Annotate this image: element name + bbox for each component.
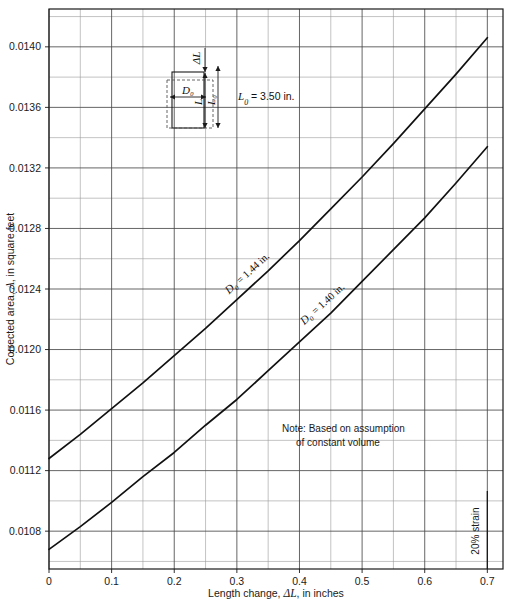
x-tick-label: 0.4 (292, 575, 307, 587)
x-axis-title-symbol: ΔL (282, 587, 296, 599)
l-label: L (192, 99, 204, 106)
d0-label: D₀ (181, 84, 194, 96)
y-axis-title: Corrected area, A, in square feet (4, 213, 16, 365)
y-tick-label: 0.0140 (9, 40, 41, 52)
x-tick-label: 0 (46, 575, 52, 587)
y-tick-label: 0.0108 (9, 525, 41, 537)
y-tick-label: 0.0116 (10, 404, 41, 416)
note-line-1: Note: Based on assumption (282, 423, 405, 434)
y-axis-title-pre: Corrected area, (4, 289, 16, 365)
note-line-2: of constant volume (296, 437, 380, 448)
chart-figure: D₀ = 1.44 in.D₀ = 1.40 in. 00.10.20.30.4… (0, 0, 516, 607)
l0-value-symbol: L (237, 90, 244, 102)
delta-l-label: ΔL (190, 52, 202, 66)
y-tick-label: 0.0132 (9, 162, 41, 174)
x-tick-label: 0.5 (355, 575, 370, 587)
x-tick-label: 0.1 (104, 575, 119, 587)
strain-marker-label: 20% strain (470, 507, 481, 554)
x-axis-title-post: , in inches (297, 587, 344, 599)
corrected-area-vs-length-change-chart: D₀ = 1.44 in.D₀ = 1.40 in. 00.10.20.30.4… (0, 0, 516, 607)
l0-value-text: = 3.50 in. (248, 90, 294, 102)
y-tick-label: 0.0136 (9, 101, 41, 113)
x-tick-label: 0.2 (167, 575, 182, 587)
l0-label: L₀ (205, 95, 217, 106)
x-tick-label: 0.3 (230, 575, 245, 587)
x-tick-label: 0.6 (417, 575, 432, 587)
y-axis-title-post: , in square feet (4, 213, 16, 283)
y-tick-label: 0.0112 (10, 464, 41, 476)
x-axis-title-pre: Length change, (208, 587, 283, 599)
x-axis-title: Length change, ΔL, in inches (208, 587, 344, 599)
x-tick-label: 0.7 (480, 575, 495, 587)
